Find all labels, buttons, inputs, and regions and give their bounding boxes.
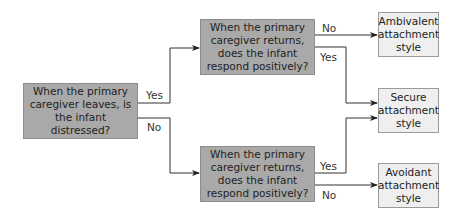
top-question-text: When the primary caregiver returns, does… bbox=[201, 21, 314, 73]
avoidant-result-node: Avoidant attachment style bbox=[378, 163, 439, 208]
start-question-text: When the primary caregiver leaves, is th… bbox=[24, 85, 137, 137]
bottom-question-node: When the primary caregiver returns, does… bbox=[200, 146, 315, 202]
secure-result-node: Secure attachment style bbox=[378, 88, 439, 133]
bottom-yes-label: Yes bbox=[320, 160, 337, 172]
start-question-node: When the primary caregiver leaves, is th… bbox=[23, 83, 138, 139]
ambivalent-text: Ambivalent attachment style bbox=[378, 15, 439, 54]
bottom-question-text: When the primary caregiver returns, does… bbox=[201, 148, 314, 200]
start-yes-label: Yes bbox=[146, 89, 163, 101]
top-no-label: No bbox=[322, 22, 336, 34]
top-question-node: When the primary caregiver returns, does… bbox=[200, 19, 315, 75]
bottom-no-label: No bbox=[322, 189, 336, 201]
top-yes-label: Yes bbox=[320, 51, 337, 63]
ambivalent-result-node: Ambivalent attachment style bbox=[378, 12, 439, 57]
start-no-label: No bbox=[147, 121, 161, 133]
secure-text: Secure attachment style bbox=[378, 91, 439, 130]
avoidant-text: Avoidant attachment style bbox=[378, 166, 439, 205]
